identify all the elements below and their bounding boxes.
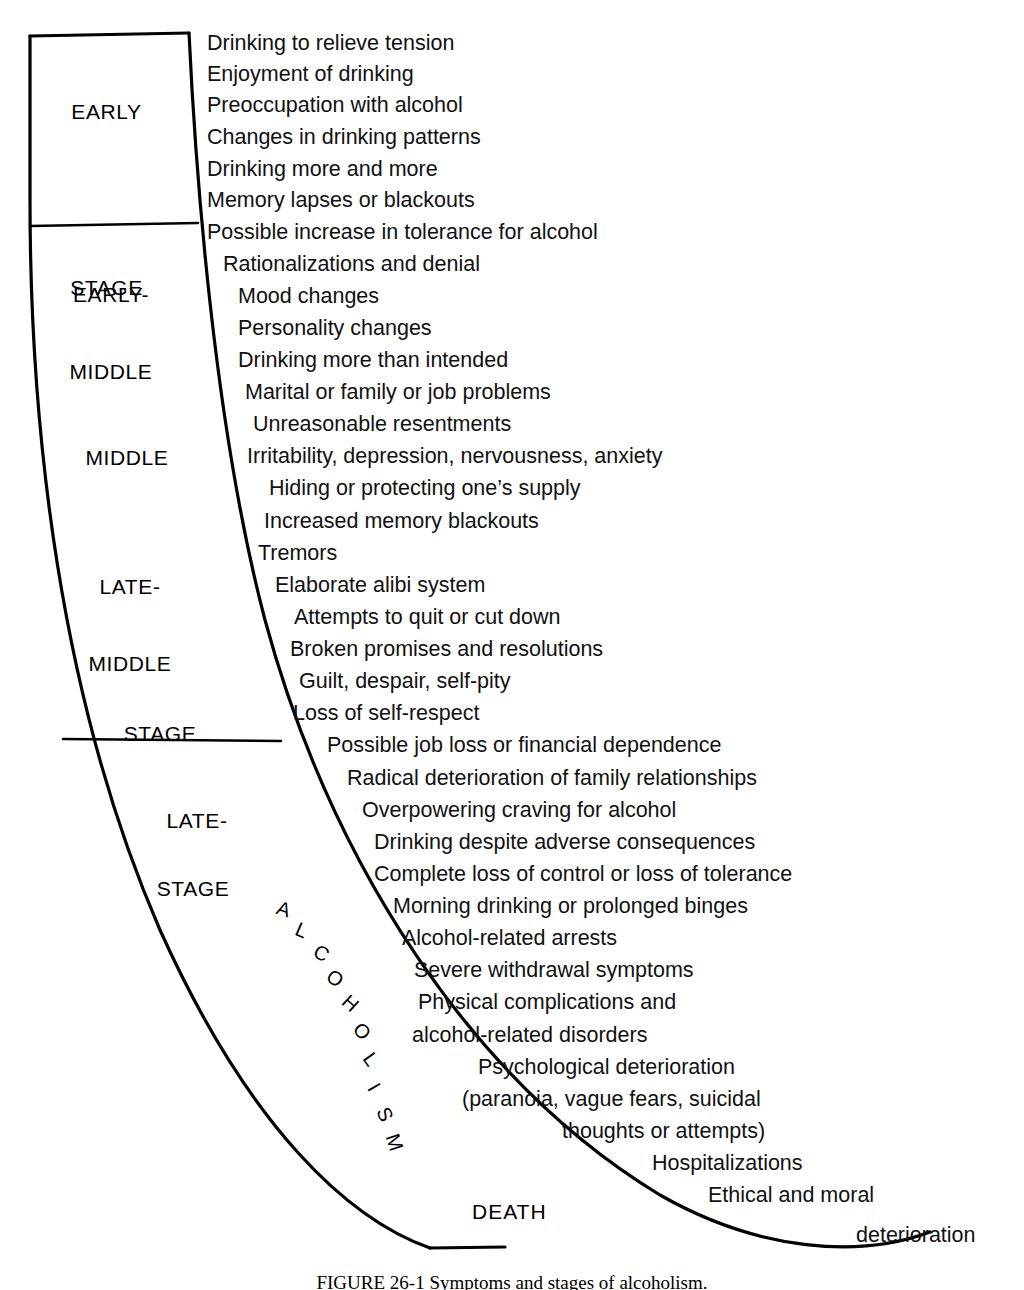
symptom-line: Hospitalizations xyxy=(652,1153,803,1175)
symptom-line: Broken promises and resolutions xyxy=(290,639,603,661)
symptom-line: alcohol-related disorders xyxy=(412,1025,647,1047)
symptom-line: Severe withdrawal symptoms xyxy=(414,960,694,982)
stage-label-line: EARLY xyxy=(34,99,179,125)
symptom-line: Possible job loss or financial dependenc… xyxy=(327,735,721,757)
stage-label-late-stage-2: STAGE xyxy=(113,825,273,953)
stage-label-line: LATE- xyxy=(50,574,210,600)
stage-label-middle: MIDDLE xyxy=(47,394,207,522)
symptom-line: (paranoia, vague fears, suicidal xyxy=(462,1089,761,1111)
stage-label-line: MIDDLE xyxy=(47,445,207,471)
symptom-line: Ethical and moral xyxy=(708,1185,874,1207)
symptom-line: Unreasonable resentments xyxy=(253,414,511,436)
figure-caption: FIGURE 26-1 Symptoms and stages of alcoh… xyxy=(0,1272,1024,1290)
stage-label-line: EARLY- xyxy=(31,282,191,308)
symptom-line: Elaborate alibi system xyxy=(275,575,485,597)
symptom-line: Irritability, depression, nervousness, a… xyxy=(247,446,662,468)
alcoholism-stages-figure: EARLY STAGE EARLY- MIDDLE MIDDLE LATE- M… xyxy=(0,0,1024,1290)
symptom-line: Physical complications and xyxy=(418,992,676,1014)
symptom-line: Tremors xyxy=(258,543,337,565)
symptom-line: Mood changes xyxy=(238,286,379,308)
death-label: DEATH xyxy=(472,1200,547,1224)
symptom-line: Changes in drinking patterns xyxy=(207,127,481,149)
symptom-line: Preoccupation with alcohol xyxy=(207,95,463,117)
stage-label-line: STAGE xyxy=(80,721,240,747)
symptom-line: Morning drinking or prolonged binges xyxy=(393,896,748,918)
symptom-line: Enjoyment of drinking xyxy=(207,64,414,86)
stage-label-line: STAGE xyxy=(113,876,273,902)
symptom-line: Loss of self-respect xyxy=(293,703,479,725)
funnel-top-edge xyxy=(30,33,189,36)
stage-label-line: MIDDLE xyxy=(31,359,191,385)
funnel-bottom-edge xyxy=(430,1247,505,1248)
symptom-line: thoughts or attempts) xyxy=(562,1121,765,1143)
symptom-line: Hiding or protecting one’s supply xyxy=(269,478,581,500)
symptom-line: Drinking to relieve tension xyxy=(207,33,454,55)
symptom-line: Possible increase in tolerance for alcoh… xyxy=(207,222,598,244)
symptom-line: Guilt, despair, self-pity xyxy=(299,671,511,693)
symptom-line: Radical deterioration of family relation… xyxy=(347,768,757,790)
symptom-line: Personality changes xyxy=(238,318,432,340)
symptom-line: Marital or family or job problems xyxy=(245,382,551,404)
symptom-line: Drinking more than intended xyxy=(238,350,508,372)
symptom-line: Attempts to quit or cut down xyxy=(294,607,561,629)
symptom-line: Memory lapses or blackouts xyxy=(207,190,475,212)
symptom-line: deterioration xyxy=(856,1225,976,1247)
symptom-line: Complete loss of control or loss of tole… xyxy=(374,864,792,886)
symptom-line: Alcohol-related arrests xyxy=(402,928,617,950)
symptom-line: Increased memory blackouts xyxy=(264,511,539,533)
symptom-line: Drinking more and more xyxy=(207,159,438,181)
symptom-line: Drinking despite adverse consequences xyxy=(374,832,755,854)
symptom-line: Psychological deterioration xyxy=(478,1057,735,1079)
symptom-line: Rationalizations and denial xyxy=(223,254,480,276)
symptom-line: Overpowering craving for alcohol xyxy=(362,800,676,822)
